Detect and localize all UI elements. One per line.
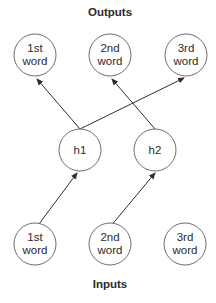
input-node-1st-line2: word <box>22 244 48 256</box>
hidden-node-h1-label: h1 <box>74 144 87 156</box>
output-node-2nd-line1: 2nd <box>100 42 119 54</box>
edge-input2-h2 <box>110 173 155 227</box>
network-diagram: Outputs 1st word 2nd word 3rd word h1 h2… <box>0 0 216 303</box>
output-node-2nd-line2: word <box>97 55 123 67</box>
input-node-3rd: 3rd word <box>164 223 206 265</box>
edge-input1-h1 <box>36 173 77 228</box>
input-node-1st: 1st word <box>14 223 56 265</box>
hidden-node-h1: h1 <box>59 129 101 171</box>
output-node-3rd-line1: 3rd <box>178 42 195 54</box>
edge-h1-output3 <box>80 78 184 129</box>
input-node-2nd: 2nd word <box>89 223 131 265</box>
output-node-3rd-line2: word <box>173 55 199 67</box>
input-node-3rd-line2: word <box>172 244 198 256</box>
output-node-1st: 1st word <box>14 34 56 76</box>
output-node-1st-line1: 1st <box>27 42 43 54</box>
input-node-2nd-line2: word <box>97 244 123 256</box>
hidden-node-h2: h2 <box>134 129 176 171</box>
hidden-node-h2-label: h2 <box>149 144 162 156</box>
edge-h1-output1 <box>37 79 80 129</box>
edge-h2-output2 <box>112 79 155 129</box>
output-node-3rd: 3rd word <box>165 34 207 76</box>
outputs-label: Outputs <box>88 6 132 18</box>
input-node-1st-line1: 1st <box>27 231 43 243</box>
output-node-1st-line2: word <box>22 55 48 67</box>
input-node-2nd-line1: 2nd <box>100 231 119 243</box>
inputs-label: Inputs <box>93 278 128 290</box>
output-node-2nd: 2nd word <box>89 34 131 76</box>
input-node-3rd-line1: 3rd <box>177 231 194 243</box>
